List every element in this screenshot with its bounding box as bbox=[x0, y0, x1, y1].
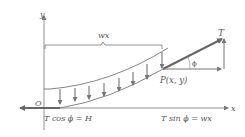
origin-label: O bbox=[35, 99, 42, 108]
tension-label: T bbox=[218, 28, 225, 38]
x-axis-label: x bbox=[231, 104, 236, 113]
load-curve bbox=[44, 48, 168, 89]
load-label: wx bbox=[98, 31, 110, 40]
cable-diagram: y x O wx T ϕ P(x, y) T cos ϕ = H T sin ϕ… bbox=[0, 0, 245, 137]
left-equation: T cos ϕ = H bbox=[44, 114, 93, 123]
right-equation: T sin ϕ = wx bbox=[161, 114, 212, 123]
angle-arc bbox=[188, 57, 190, 69]
load-brace bbox=[45, 42, 162, 49]
angle-label: ϕ bbox=[192, 60, 197, 68]
y-axis-label: y bbox=[39, 10, 45, 19]
point-label: P(x, y) bbox=[159, 75, 187, 85]
